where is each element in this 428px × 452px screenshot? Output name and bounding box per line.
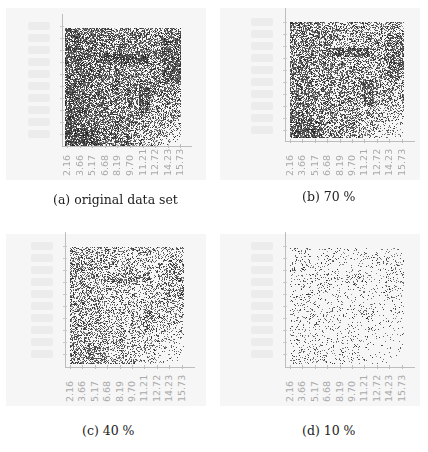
caption-c: (c) 40 % xyxy=(82,423,134,438)
x-tick xyxy=(180,144,181,148)
x-tick-label: 3.66 xyxy=(77,381,87,402)
panel-d: (d) 10 % 2.163.665.176.688.199.7011.2112… xyxy=(214,226,428,452)
x-tick-label: 9.70 xyxy=(347,155,357,176)
y-tick xyxy=(60,86,64,87)
y-tick-label-illegible xyxy=(31,242,53,250)
x-tick-label: 12.72 xyxy=(150,149,160,176)
x-tick xyxy=(315,365,316,369)
x-tick-label: 12.72 xyxy=(372,375,382,402)
y-tick xyxy=(283,294,287,295)
y-tick-label-illegible xyxy=(251,326,273,334)
x-tick-label: 3.66 xyxy=(297,155,307,176)
y-tick-label-illegible xyxy=(31,302,53,310)
x-tick xyxy=(290,139,291,143)
y-tick-label-illegible xyxy=(28,22,50,30)
y-tick xyxy=(283,106,287,107)
x-tick xyxy=(302,365,303,369)
x-tick-label: 6.68 xyxy=(100,155,110,176)
y-tick-label-illegible xyxy=(251,242,273,250)
y-tick xyxy=(283,34,287,35)
x-tick-label: 5.17 xyxy=(87,155,97,176)
y-tick xyxy=(283,246,287,247)
x-tick-label: 12.72 xyxy=(372,149,382,176)
x-tick xyxy=(105,144,106,148)
y-tick-label-illegible xyxy=(251,66,273,74)
y-tick-label-illegible xyxy=(28,118,50,126)
y-tick-label-illegible xyxy=(251,114,273,122)
x-tick-label: 14.23 xyxy=(164,375,174,402)
x-tick-label: 6.68 xyxy=(322,381,332,402)
x-tick xyxy=(352,139,353,143)
y-tick-label-illegible xyxy=(251,90,273,98)
scatter-plot-a xyxy=(65,28,181,146)
y-tick xyxy=(283,258,287,259)
x-tick xyxy=(364,139,365,143)
y-tick-label-illegible xyxy=(251,278,273,286)
x-tick-label: 14.23 xyxy=(384,149,394,176)
y-tick xyxy=(283,306,287,307)
x-tick xyxy=(82,365,83,369)
y-tick xyxy=(283,70,287,71)
x-tick xyxy=(144,365,145,369)
x-tick xyxy=(70,365,71,369)
x-tick xyxy=(327,139,328,143)
scatter-plot-d xyxy=(290,248,404,364)
y-tick-label-illegible xyxy=(28,94,50,102)
x-tick xyxy=(340,139,341,143)
x-tick-label: 15.73 xyxy=(397,375,407,402)
x-tick xyxy=(182,365,183,369)
panel-b: (b) 70 % 2.163.665.176.688.199.7011.2112… xyxy=(214,0,428,226)
x-tick-label: 8.19 xyxy=(335,155,345,176)
y-tick xyxy=(60,110,64,111)
y-tick-label-illegible xyxy=(31,326,53,334)
x-axis xyxy=(285,367,415,368)
y-tick-label-illegible xyxy=(28,46,50,54)
y-tick xyxy=(60,26,64,27)
y-tick xyxy=(283,58,287,59)
y-tick-label-illegible xyxy=(28,106,50,114)
y-tick xyxy=(60,62,64,63)
y-tick xyxy=(60,50,64,51)
x-tick-label: 15.73 xyxy=(175,149,185,176)
x-axis xyxy=(285,141,415,142)
x-tick xyxy=(143,144,144,148)
y-tick-label-illegible xyxy=(251,30,273,38)
y-tick-label-illegible xyxy=(251,102,273,110)
x-tick-label: 14.23 xyxy=(384,375,394,402)
y-tick-label-illegible xyxy=(28,58,50,66)
y-tick-label-illegible xyxy=(251,126,273,134)
y-tick xyxy=(283,270,287,271)
y-axis xyxy=(285,232,286,368)
y-tick-label-illegible xyxy=(31,278,53,286)
x-tick xyxy=(80,144,81,148)
x-tick xyxy=(377,139,378,143)
x-tick xyxy=(402,365,403,369)
x-tick-label: 15.73 xyxy=(397,149,407,176)
x-tick xyxy=(117,144,118,148)
scatter-plot-b xyxy=(290,22,404,138)
y-tick-label-illegible xyxy=(251,290,273,298)
y-tick-label-illegible xyxy=(28,34,50,42)
y-tick-label-illegible xyxy=(251,266,273,274)
x-tick xyxy=(315,139,316,143)
x-tick-label: 3.66 xyxy=(297,381,307,402)
x-tick xyxy=(95,365,96,369)
caption-b: (b) 70 % xyxy=(302,189,356,204)
x-tick-label: 8.19 xyxy=(112,155,122,176)
y-tick xyxy=(283,342,287,343)
x-tick-label: 2.16 xyxy=(285,381,295,402)
x-tick-label: 5.17 xyxy=(310,381,320,402)
y-tick-label-illegible xyxy=(251,54,273,62)
y-tick-label-illegible xyxy=(31,290,53,298)
y-tick-label-illegible xyxy=(251,350,273,358)
y-tick xyxy=(63,294,67,295)
x-tick xyxy=(107,365,108,369)
x-tick xyxy=(67,144,68,148)
x-axis xyxy=(62,146,192,147)
x-tick-label: 5.17 xyxy=(90,381,100,402)
x-tick-label: 14.23 xyxy=(163,149,173,176)
y-tick xyxy=(63,330,67,331)
y-tick xyxy=(283,82,287,83)
x-tick-label: 12.72 xyxy=(152,375,162,402)
x-tick xyxy=(389,139,390,143)
